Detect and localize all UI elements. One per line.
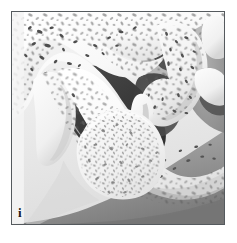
panel-label: i xyxy=(18,206,22,219)
anatomical-cross-section-illustration xyxy=(12,12,224,224)
illustration-frame: i xyxy=(11,11,225,225)
left-margin-light-field xyxy=(12,12,24,224)
figure-panel: i xyxy=(0,0,237,243)
